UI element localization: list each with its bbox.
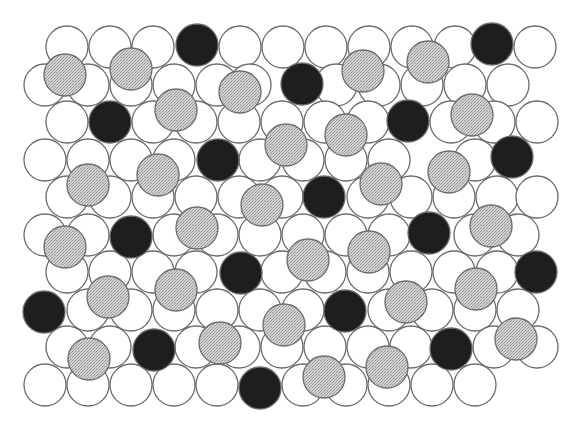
white-circle	[514, 26, 556, 68]
gray-circle	[455, 268, 497, 310]
white-circle	[219, 26, 261, 68]
black-circle	[110, 216, 152, 258]
black-circle	[408, 212, 450, 254]
white-circle	[46, 101, 88, 143]
gray-circle	[265, 124, 307, 166]
black-circle	[324, 290, 366, 332]
gray-circle	[287, 239, 329, 281]
gray-circle	[263, 304, 305, 346]
gray-circle	[68, 338, 110, 380]
white-circle	[516, 176, 558, 218]
gray-circle	[44, 226, 86, 268]
white-circle	[454, 364, 496, 406]
gray-circle	[199, 322, 241, 364]
circle-packing-diagram	[0, 0, 581, 431]
black-circle	[281, 63, 323, 105]
white-circle	[305, 26, 347, 68]
gray-circle	[110, 48, 152, 90]
gray-circle	[407, 41, 449, 83]
gray-circle	[495, 318, 537, 360]
white-circle	[262, 26, 304, 68]
black-circle	[220, 252, 262, 294]
gray-circle	[219, 71, 261, 113]
black-circle	[197, 139, 239, 181]
gray-circle	[176, 207, 218, 249]
black-circle	[430, 328, 472, 370]
gray-circle	[470, 205, 512, 247]
white-circle	[411, 364, 453, 406]
black-circle	[239, 367, 281, 409]
diagram-canvas	[0, 0, 581, 431]
black-circle	[303, 176, 345, 218]
gray-circle	[87, 276, 129, 318]
gray-circle	[303, 356, 345, 398]
gray-circle	[428, 151, 470, 193]
white-circle	[24, 364, 66, 406]
black-circle	[133, 329, 175, 371]
white-circle	[110, 364, 152, 406]
black-circle	[387, 100, 429, 142]
gray-circle	[360, 163, 402, 205]
gray-circle	[67, 164, 109, 206]
black-circle	[23, 291, 65, 333]
white-circle	[516, 101, 558, 143]
gray-circle	[451, 94, 493, 136]
gray-circle	[325, 114, 367, 156]
gray-circle	[366, 346, 408, 388]
black-circle	[89, 101, 131, 143]
gray-circle	[348, 231, 390, 273]
gray-circle	[155, 89, 197, 131]
black-circle	[491, 136, 533, 178]
white-circle	[487, 64, 529, 106]
white-circle	[24, 139, 66, 181]
black-circle	[515, 251, 557, 293]
gray-circle	[241, 184, 283, 226]
gray-circle	[385, 281, 427, 323]
gray-circle	[137, 154, 179, 196]
gray-circle	[155, 269, 197, 311]
black-circle	[471, 23, 513, 65]
black-circle	[176, 24, 218, 66]
gray-circle	[44, 54, 86, 96]
white-circle	[196, 364, 238, 406]
gray-circle	[342, 50, 384, 92]
